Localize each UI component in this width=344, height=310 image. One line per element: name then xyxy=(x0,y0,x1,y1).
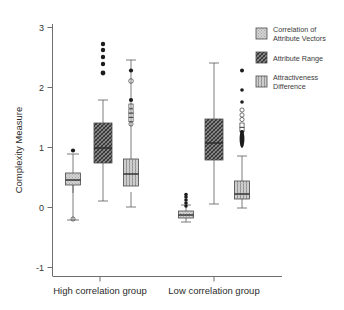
legend-label-1-line2: Attribute Vectors xyxy=(273,34,326,43)
y-tick-label-3: 3 xyxy=(39,23,44,33)
y-tick-label-neg1: -1 xyxy=(36,263,44,273)
legend-label-2-line1: Attribute Range xyxy=(273,54,323,63)
legend-swatch-attractiveness-difference xyxy=(256,76,267,87)
boxplot-figure: 3 2 1 0 -1 Complexity Measure High corre… xyxy=(0,0,344,310)
y-axis: 3 2 1 0 -1 Complexity Measure xyxy=(13,23,53,276)
legend-label-3-line2: Difference xyxy=(273,82,306,91)
legend-swatch-correlation-of-attribute-vectors xyxy=(256,28,267,39)
legend-label-1-line1: Correlation of xyxy=(273,25,316,34)
x-tick-label-high: High correlation group xyxy=(53,285,146,296)
x-tick-label-low: Low correlation group xyxy=(168,285,259,296)
box-low-correlation-attribute-vectors xyxy=(179,193,194,222)
box-high-correlation-attribute-vectors xyxy=(66,148,81,221)
box-low-correlation-attribute-range xyxy=(205,63,223,204)
y-axis-title: Complexity Measure xyxy=(13,107,24,194)
box-low-correlation-attractiveness-difference xyxy=(235,69,250,209)
y-tick-label-0: 0 xyxy=(39,203,44,213)
box-high-correlation-attractiveness-difference xyxy=(124,60,139,207)
box-high-correlation-attribute-range xyxy=(94,42,112,201)
legend-label-3-line1: Attractiveness xyxy=(273,73,319,82)
y-tick-label-1: 1 xyxy=(39,143,44,153)
x-axis: High correlation group Low correlation g… xyxy=(53,277,283,297)
legend: Correlation of Attribute Vectors Attribu… xyxy=(256,25,326,91)
y-tick-label-2: 2 xyxy=(39,83,44,93)
legend-swatch-attribute-range xyxy=(256,52,267,63)
chart-svg: 3 2 1 0 -1 Complexity Measure High corre… xyxy=(0,0,344,310)
